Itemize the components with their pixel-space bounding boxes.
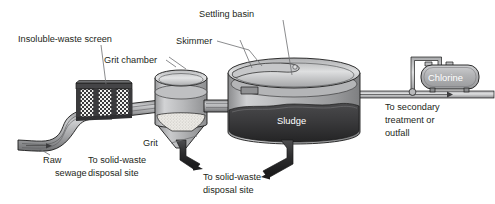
label-grit: Grit [143, 138, 158, 148]
label-solid-waste-a-line2: disposal site [88, 168, 139, 178]
label-outflow-line2: treatment or [385, 115, 435, 125]
label-grit-chamber: Grit chamber [104, 55, 157, 65]
wastewater-treatment-diagram: Insoluble-waste screen Grit chamber Skim… [0, 0, 495, 204]
label-sludge: Sludge [277, 115, 306, 126]
label-solid-waste-a-line1: To solid-waste [88, 155, 146, 165]
label-raw-sewage-line1: Raw [43, 155, 62, 165]
label-skimmer: Skimmer [176, 36, 212, 46]
label-outflow-line3: outfall [385, 128, 410, 138]
label-insoluble-waste-screen: Insoluble-waste screen [18, 34, 112, 44]
label-settling-basin: Settling basin [199, 9, 254, 19]
insoluble-waste-screen [76, 81, 133, 122]
effluent-pipe [352, 91, 494, 98]
grit-chamber [155, 70, 207, 171]
label-raw-sewage-line2: sewage [55, 168, 87, 178]
label-solid-waste-b-line2: disposal site [203, 185, 254, 195]
label-outflow-line1: To secondary [385, 102, 440, 112]
label-chlorine: Chlorine [428, 72, 463, 83]
diagram-canvas: Insoluble-waste screen Grit chamber Skim… [0, 0, 495, 204]
label-solid-waste-b-line1: To solid-waste [203, 172, 261, 182]
